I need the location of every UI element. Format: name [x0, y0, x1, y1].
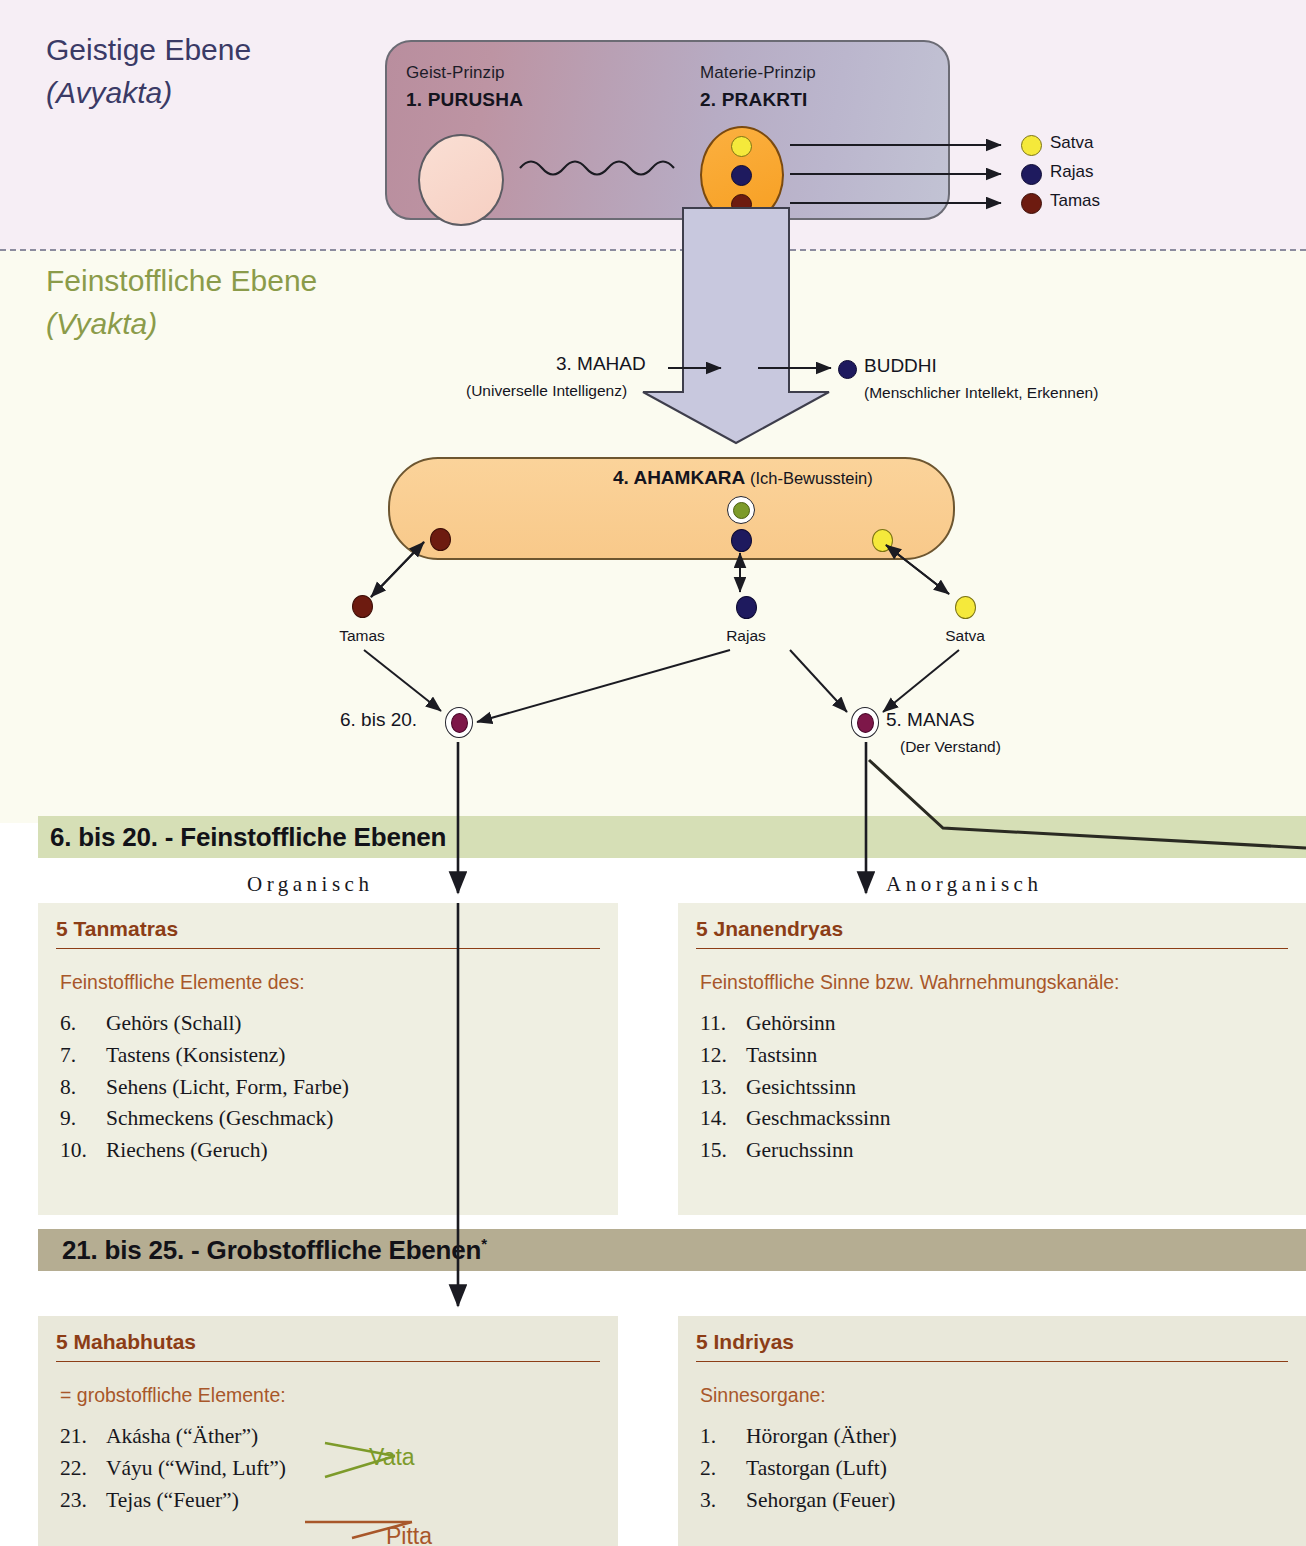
prakrti-tamas-dot [731, 194, 752, 215]
mahad-node-ring [727, 355, 755, 383]
legend-tamas-dot [1021, 193, 1042, 214]
manas-node-ring [851, 707, 879, 738]
manas-node-dot [857, 713, 874, 733]
tanmatra-node-ring [445, 707, 473, 738]
legend-rajas-dot [1021, 164, 1042, 185]
guna-label-tamas: Tamas [312, 627, 412, 645]
list-item: 1.Hörorgan (Äther) [678, 1421, 1306, 1453]
list-item: 12.Tastsinn [678, 1040, 1306, 1072]
emitted-satva-dot [955, 596, 976, 619]
column-label-organisch: Organisch [247, 872, 373, 897]
box-mahabhutas-list: 21.Akásha (“Äther”) 22.Váyu (“Wind, Luft… [38, 1407, 618, 1516]
purusha-sphere [418, 134, 504, 226]
box-tanmatras: 5 Tanmatras Feinstoffliche Elemente des:… [38, 903, 618, 1215]
box-tanmatras-lead: Feinstoffliche Elemente des: [38, 949, 618, 994]
dosha-label-vata: Vata [369, 1444, 415, 1471]
list-item: 23.Tejas (“Feuer”) [38, 1485, 618, 1517]
box-mahabhutas-lead: = grobstoffliche Elemente: [38, 1362, 618, 1407]
box-indriyas-lead: Sinnesorgane: [678, 1362, 1306, 1407]
emitted-rajas-dot [736, 596, 757, 619]
box-mahabhutas: 5 Mahabhutas = grobstoffliche Elemente: … [38, 1316, 618, 1546]
avyakta-title: Geistige Ebene [46, 33, 251, 67]
mahad-node-dot [733, 361, 750, 378]
section-band-gross: 21. bis 25. - Grobstoffliche Ebenen* [38, 1229, 1306, 1271]
prakrti-caption: Materie-Prinzip [700, 63, 816, 83]
emitted-tamas-dot [352, 595, 373, 618]
ahamkara-title: 4. AHAMKARA (Ich-Bewusstein) [613, 467, 873, 489]
list-item: 21.Akásha (“Äther”) [38, 1421, 618, 1453]
guna-label-rajas: Rajas [696, 627, 796, 645]
list-item: 10.Riechens (Geruch) [38, 1135, 618, 1167]
prakrti-satva-dot [731, 136, 752, 157]
list-item: 3.Sehorgan (Feuer) [678, 1485, 1306, 1517]
vyakta-subtitle: (Vyakta) [46, 307, 157, 341]
legend-rajas-label: Rajas [1050, 162, 1093, 182]
manas-sublabel: (Der Verstand) [900, 738, 1001, 756]
list-item: 9.Schmeckens (Geschmack) [38, 1103, 618, 1135]
ahamkara-tamas-dot [430, 528, 451, 551]
ahamkara-rajas-dot [731, 529, 752, 552]
buddhi-label: BUDDHI [864, 355, 937, 377]
list-item: 6.Gehörs (Schall) [38, 1008, 618, 1040]
buddhi-sublabel: (Menschlicher Intellekt, Erkennen) [864, 384, 1098, 402]
legend-satva-dot [1021, 135, 1042, 156]
list-item: 2.Tastorgan (Luft) [678, 1453, 1306, 1485]
list-item: 13.Gesichtssinn [678, 1072, 1306, 1104]
prakrti-rajas-dot [731, 165, 752, 186]
column-label-anorganisch: Anorganisch [886, 872, 1042, 897]
ahamkara-node-ring [727, 496, 755, 524]
box-jnanendryas-lead: Feinstoffliche Sinne bzw. Wahrnehmungska… [678, 949, 1306, 994]
section-title-subtle: 6. bis 20. - Feinstoffliche Ebenen [38, 822, 446, 853]
list-item: 22.Váyu (“Wind, Luft”) [38, 1453, 618, 1485]
level-divider-dashed [0, 249, 1306, 251]
box-indriyas-title: 5 Indriyas [678, 1316, 1306, 1354]
box-jnanendryas: 5 Jnanendryas Feinstoffliche Sinne bzw. … [678, 903, 1306, 1215]
mahad-label: 3. MAHAD [556, 353, 646, 375]
box-jnanendryas-list: 11.Gehörsinn 12.Tastsinn 13.Gesichtssinn… [678, 994, 1306, 1167]
ahamkara-name: 4. AHAMKARA [613, 467, 745, 488]
box-mahabhutas-title: 5 Mahabhutas [38, 1316, 618, 1354]
list-item: 15.Geruchssinn [678, 1135, 1306, 1167]
list-item: 14.Geschmackssinn [678, 1103, 1306, 1135]
dosha-label-pitta: Pitta [386, 1523, 432, 1546]
buddhi-dot [838, 360, 857, 379]
ahamkara-satva-dot [872, 529, 893, 552]
section-title-gross: 21. bis 25. - Grobstoffliche Ebenen* [38, 1235, 487, 1266]
legend-satva-label: Satva [1050, 133, 1093, 153]
list-item: 7.Tastens (Konsistenz) [38, 1040, 618, 1072]
box-jnanendryas-title: 5 Jnanendryas [678, 903, 1306, 941]
tanmatra-node-dot [451, 713, 468, 733]
tanmatra-node-label: 6. bis 20. [340, 709, 417, 731]
box-indriyas-list: 1.Hörorgan (Äther) 2.Tastorgan (Luft) 3.… [678, 1407, 1306, 1516]
box-tanmatras-title: 5 Tanmatras [38, 903, 618, 941]
guna-label-satva: Satva [915, 627, 1015, 645]
legend-tamas-label: Tamas [1050, 191, 1100, 211]
purusha-name: 1. PURUSHA [406, 89, 523, 111]
list-item: 11.Gehörsinn [678, 1008, 1306, 1040]
box-indriyas: 5 Indriyas Sinnesorgane: 1.Hörorgan (Äth… [678, 1316, 1306, 1546]
manas-label: 5. MANAS [886, 709, 975, 731]
list-item: 8.Sehens (Licht, Form, Farbe) [38, 1072, 618, 1104]
ahamkara-sub: (Ich-Bewusstein) [750, 469, 873, 487]
avyakta-subtitle: (Avyakta) [46, 76, 172, 110]
purusha-caption: Geist-Prinzip [406, 63, 505, 83]
vyakta-title: Feinstoffliche Ebene [46, 264, 317, 298]
prakrti-name: 2. PRAKRTI [700, 89, 808, 111]
ahamkara-node-dot [733, 502, 750, 519]
mahad-sublabel: (Universelle Intelligenz) [466, 382, 627, 400]
box-tanmatras-list: 6.Gehörs (Schall) 7.Tastens (Konsistenz)… [38, 994, 618, 1167]
section-band-subtle: 6. bis 20. - Feinstoffliche Ebenen [38, 816, 1306, 858]
